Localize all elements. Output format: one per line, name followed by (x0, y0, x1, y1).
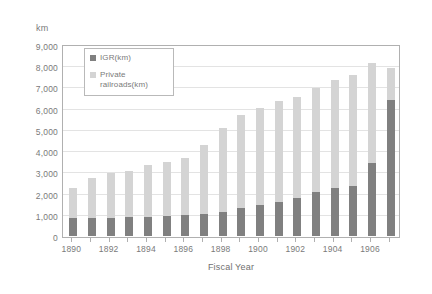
bar-segment-igr[interactable] (331, 188, 339, 236)
x-axis-tick-label: 1892 (99, 244, 119, 254)
x-axis-tick-mark (221, 238, 222, 242)
x-axis-tick-mark (71, 238, 72, 242)
x-axis-tick-mark (277, 238, 278, 242)
bar-segment-igr[interactable] (368, 163, 376, 236)
bar-slot (64, 47, 83, 236)
legend-swatch-icon-igr (90, 55, 96, 61)
y-axis-tick-label: 9,000 (6, 42, 58, 52)
bar-segment-private-railroads[interactable] (331, 80, 339, 188)
bar-segment-private-railroads[interactable] (387, 68, 395, 100)
bar-slot (176, 47, 195, 236)
y-axis-tick-label: 5,000 (6, 127, 58, 137)
bar-segment-private-railroads[interactable] (144, 165, 152, 217)
bar-slot (251, 47, 270, 236)
x-axis-tick-label: 1900 (248, 244, 268, 254)
bar-segment-igr[interactable] (88, 218, 96, 236)
x-axis-tick-mark (239, 238, 240, 242)
bar-slot (232, 47, 251, 236)
bar-segment-igr[interactable] (181, 215, 189, 236)
x-axis-tick-mark (183, 238, 184, 242)
x-axis-tick-mark (109, 238, 110, 242)
bar-segment-igr[interactable] (293, 198, 301, 236)
bar-segment-igr[interactable] (125, 217, 133, 236)
bar-stack[interactable] (69, 188, 77, 236)
bar-segment-private-railroads[interactable] (349, 75, 357, 186)
x-axis-tick-label: 1902 (285, 244, 305, 254)
bar-segment-private-railroads[interactable] (181, 158, 189, 216)
x-axis-tick-label: 1890 (61, 244, 81, 254)
y-axis-tick-label: 2,000 (6, 191, 58, 201)
bar-stack[interactable] (88, 178, 96, 236)
bar-segment-private-railroads[interactable] (88, 178, 96, 217)
x-axis-tick-mark (333, 238, 334, 242)
bar-stack[interactable] (293, 97, 301, 236)
bar-stack[interactable] (200, 145, 208, 236)
bar-segment-igr[interactable] (69, 218, 77, 236)
y-axis-unit-label: km (36, 23, 48, 33)
bar-stack[interactable] (219, 128, 227, 236)
bar-segment-private-railroads[interactable] (275, 101, 283, 202)
x-axis-tick-mark (295, 238, 296, 242)
bar-segment-igr[interactable] (144, 217, 152, 236)
y-axis-tick-label: 6,000 (6, 106, 58, 116)
x-axis-tick-mark (165, 238, 166, 242)
y-axis-tick-label: 0 (6, 233, 58, 243)
bar-slot (344, 47, 363, 236)
bar-slot (363, 47, 382, 236)
bar-stack[interactable] (125, 171, 133, 236)
legend-label-private-railroads: Private railroads(km) (100, 70, 168, 90)
bar-segment-igr[interactable] (387, 100, 395, 236)
bar-segment-private-railroads[interactable] (293, 97, 301, 198)
legend-item-igr: IGR(km) (90, 53, 168, 63)
bar-segment-igr[interactable] (107, 218, 115, 236)
bar-slot (381, 47, 400, 236)
bar-segment-igr[interactable] (163, 216, 171, 236)
bar-segment-igr[interactable] (219, 212, 227, 236)
bar-stack[interactable] (368, 63, 376, 236)
bar-segment-igr[interactable] (237, 208, 245, 236)
bar-stack[interactable] (312, 88, 320, 236)
x-axis-tick-label: 1898 (211, 244, 231, 254)
bar-segment-private-railroads[interactable] (219, 128, 227, 211)
x-axis-tick-mark (258, 238, 259, 242)
bar-stack[interactable] (256, 108, 264, 236)
bar-stack[interactable] (144, 165, 152, 236)
bar-slot (307, 47, 326, 236)
bar-segment-private-railroads[interactable] (237, 115, 245, 208)
bar-stack[interactable] (275, 101, 283, 236)
x-axis-tick-label: 1906 (360, 244, 380, 254)
x-axis-tick-mark (351, 238, 352, 242)
x-axis-tick-labels: 189018921894189618981900190219041906 (62, 244, 400, 258)
bar-segment-private-railroads[interactable] (368, 63, 376, 162)
bar-stack[interactable] (349, 75, 357, 236)
legend-swatch-icon-private-railroads (90, 72, 96, 78)
bar-stack[interactable] (237, 115, 245, 236)
bar-slot (269, 47, 288, 236)
y-axis-tick-label: 4,000 (6, 148, 58, 158)
bar-segment-igr[interactable] (312, 192, 320, 236)
bar-segment-private-railroads[interactable] (256, 108, 264, 205)
bar-segment-private-railroads[interactable] (125, 171, 133, 217)
bar-stack[interactable] (107, 173, 115, 236)
bar-stack[interactable] (387, 68, 395, 236)
x-axis-tick-mark (146, 238, 147, 242)
bar-stack[interactable] (181, 158, 189, 236)
bar-stack[interactable] (331, 80, 339, 236)
bar-segment-private-railroads[interactable] (312, 88, 320, 192)
bar-segment-igr[interactable] (200, 214, 208, 236)
bar-segment-private-railroads[interactable] (163, 162, 171, 217)
bar-segment-private-railroads[interactable] (69, 188, 77, 217)
bar-slot (195, 47, 214, 236)
bar-segment-private-railroads[interactable] (200, 145, 208, 214)
bar-segment-igr[interactable] (275, 202, 283, 236)
legend-label-igr: IGR(km) (100, 53, 131, 63)
bar-segment-igr[interactable] (256, 205, 264, 236)
bar-segment-igr[interactable] (349, 186, 357, 236)
x-axis-tick-mark (389, 238, 390, 242)
x-axis-tick-mark (370, 238, 371, 242)
bar-stack[interactable] (163, 162, 171, 236)
bar-segment-private-railroads[interactable] (107, 173, 115, 218)
y-axis-tick-label: 1,000 (6, 212, 58, 222)
x-axis-tick-marks (62, 238, 400, 243)
x-axis-tick-label: 1896 (173, 244, 193, 254)
